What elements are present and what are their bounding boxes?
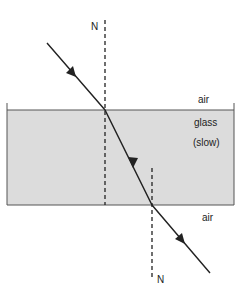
- normal-label-top: N: [91, 21, 98, 32]
- medium-label-air-bottom: air: [202, 212, 214, 223]
- medium-label-air-top: air: [198, 94, 210, 105]
- refraction-diagram: N N air glass (slow) air: [0, 0, 251, 295]
- medium-label-glass-note: (slow): [193, 137, 220, 148]
- normal-label-bottom: N: [157, 274, 164, 285]
- medium-label-glass: glass: [194, 117, 217, 128]
